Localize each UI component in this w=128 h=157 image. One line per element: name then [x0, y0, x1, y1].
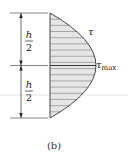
- tau-max-label: τmax: [96, 59, 116, 72]
- shear-stress-diagram: h 2 h 2 τ τmax (b): [0, 0, 128, 157]
- lower-h: h: [26, 79, 32, 90]
- figure-caption: (b): [47, 140, 61, 151]
- upper-bottom-arrowhead: [19, 61, 22, 66]
- tau-max-subscript: max: [102, 64, 117, 72]
- upper-2: 2: [26, 42, 32, 53]
- lower-top-arrowhead: [19, 66, 22, 71]
- tau-label: τ: [88, 26, 94, 37]
- upper-half-depth-label: h 2: [25, 29, 33, 53]
- lower-2: 2: [26, 92, 32, 103]
- upper-h: h: [26, 29, 32, 40]
- lower-half-depth-label: h 2: [25, 79, 33, 103]
- lower-bottom-arrowhead: [19, 113, 22, 118]
- upper-top-arrowhead: [19, 13, 22, 18]
